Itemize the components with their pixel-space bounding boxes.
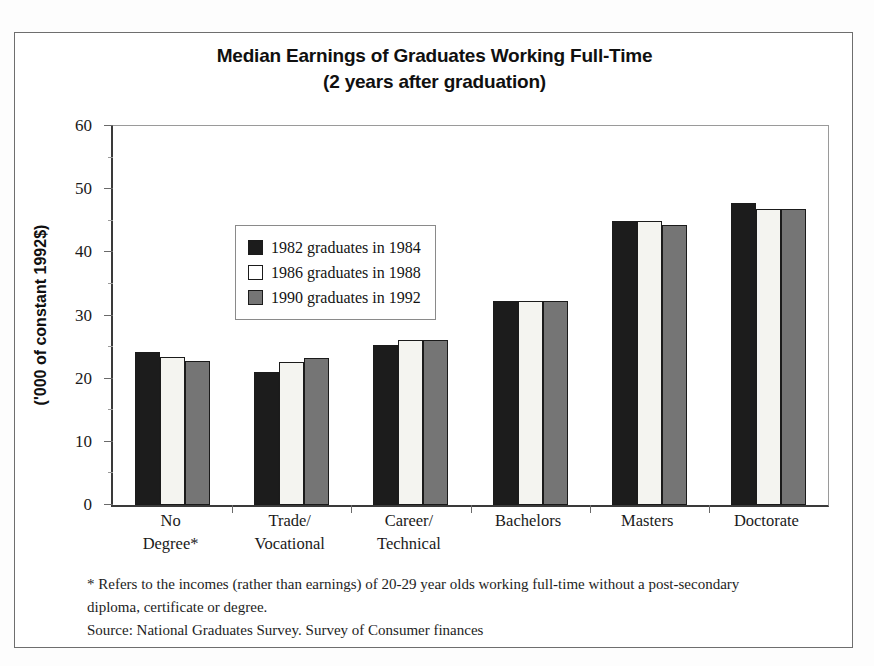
bars-layer (113, 126, 828, 505)
footnote-line-2: diploma, certificate or degree. (87, 596, 847, 619)
bar (398, 340, 423, 505)
category-label-line: Vocational (230, 532, 349, 555)
chart-footnotes: * Refers to the incomes (rather than ear… (87, 573, 847, 642)
y-axis-tick-label: 10 (75, 432, 92, 452)
x-axis-category-label: Doctorate (707, 509, 826, 532)
y-axis-tick: 0 (104, 504, 113, 505)
chart-legend: 1982 graduates in 1984 1986 graduates in… (235, 225, 436, 320)
bar (543, 301, 568, 505)
chart-title: Median Earnings of Graduates Working Ful… (15, 43, 854, 95)
legend-item: 1982 graduates in 1984 (248, 235, 421, 260)
bar (304, 358, 329, 505)
plot-area: 0102030405060 1982 graduates in 1984 198… (111, 125, 829, 507)
x-axis-category-label: Masters (588, 509, 707, 532)
bar (423, 340, 448, 505)
y-axis-tick-label: 50 (75, 179, 92, 199)
bar (135, 352, 160, 505)
category-label-line: Degree* (111, 532, 230, 555)
category-label-line: Masters (621, 511, 673, 530)
bar (518, 301, 543, 505)
y-axis-tick-label: 60 (75, 116, 92, 136)
legend-label: 1982 graduates in 1984 (271, 239, 421, 257)
x-axis-category-label: Trade/Vocational (230, 509, 349, 555)
x-axis-category-label: Bachelors (469, 509, 588, 532)
chart-title-line2: (2 years after graduation) (15, 69, 854, 95)
legend-item: 1990 graduates in 1992 (248, 285, 421, 310)
category-label-line: Career/ (385, 511, 434, 530)
category-label-line: No (160, 511, 180, 530)
y-axis-tick: 60 (104, 125, 113, 126)
bar (493, 301, 518, 505)
y-axis-title: ('000 of constant 1992$) (29, 125, 53, 504)
legend-swatch-icon (248, 240, 263, 255)
x-axis-category-label: NoDegree* (111, 509, 230, 555)
bar-group (471, 126, 590, 505)
y-axis-tick: 20 (104, 378, 113, 379)
bar-group (590, 126, 709, 505)
legend-item: 1986 graduates in 1988 (248, 260, 421, 285)
y-axis-tick-label: 30 (75, 306, 92, 326)
footnote-line-3: Source: National Graduates Survey. Surve… (87, 619, 847, 642)
bar (781, 209, 806, 505)
bar (756, 209, 781, 505)
figure-frame: Median Earnings of Graduates Working Ful… (14, 32, 853, 648)
bar (160, 357, 185, 505)
bar (185, 361, 210, 505)
legend-label: 1986 graduates in 1988 (271, 264, 421, 282)
category-label-line: Trade/ (268, 511, 310, 530)
bar (279, 362, 304, 505)
category-label-line: Doctorate (734, 511, 799, 530)
y-axis-tick: 10 (104, 441, 113, 442)
y-axis-tick: 40 (104, 251, 113, 252)
footnote-line-1: * Refers to the incomes (rather than ear… (87, 573, 847, 596)
bar (373, 345, 398, 505)
y-axis-title-text: ('000 of constant 1992$) (32, 224, 50, 405)
bar (662, 225, 687, 505)
category-label-line: Technical (349, 532, 468, 555)
legend-swatch-icon (248, 265, 263, 280)
figure-page: Median Earnings of Graduates Working Ful… (0, 0, 874, 666)
bar (612, 221, 637, 505)
y-axis-tick-label: 20 (75, 369, 92, 389)
legend-label: 1990 graduates in 1992 (271, 289, 421, 307)
y-axis-tick-label: 0 (84, 495, 93, 515)
legend-swatch-icon (248, 290, 263, 305)
y-axis-tick: 30 (104, 315, 113, 316)
y-axis-tick: 50 (104, 188, 113, 189)
x-axis-category-labels: NoDegree*Trade/VocationalCareer/Technica… (111, 509, 826, 569)
bar-group (709, 126, 828, 505)
category-label-line: Bachelors (495, 511, 561, 530)
bar (637, 221, 662, 505)
y-axis-tick-label: 40 (75, 242, 92, 262)
bar-group (113, 126, 232, 505)
chart-title-line1: Median Earnings of Graduates Working Ful… (217, 45, 653, 66)
bar (731, 203, 756, 505)
bar (254, 372, 279, 505)
x-axis-category-label: Career/Technical (349, 509, 468, 555)
